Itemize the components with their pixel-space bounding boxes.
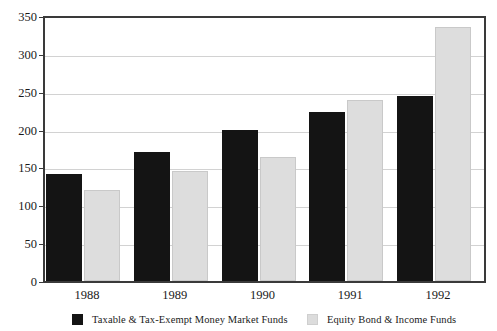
x-axis-tick-label: 1992 [398, 288, 478, 303]
bar-1989-series-2 [172, 171, 208, 281]
bar-1990-series-1 [222, 130, 258, 281]
y-axis-tick-label: 0 [0, 276, 37, 289]
legend-item-equity-bond: Equity Bond & Income Funds [307, 314, 456, 325]
y-axis-tick-label: 350 [0, 11, 37, 24]
bar-1989-series-1 [134, 152, 170, 281]
bar-series-group [45, 18, 484, 281]
bar-1990-series-2 [260, 157, 296, 281]
y-axis-tick-label: 50 [0, 238, 37, 251]
x-axis-tick-label: 1988 [47, 288, 127, 303]
bar-1991-series-1 [309, 112, 345, 281]
y-axis-tick-label: 200 [0, 125, 37, 138]
bar-1988-series-2 [84, 190, 120, 281]
plot-area [43, 16, 486, 283]
bar-1992-series-2 [435, 27, 471, 281]
x-axis-tick-label: 1991 [310, 288, 390, 303]
y-axis-tick-label: 300 [0, 49, 37, 62]
x-axis-tick-label: 1989 [135, 288, 215, 303]
y-axis-tick-label: 100 [0, 200, 37, 213]
bar-chart: 050100150200250300350 198819891990199119… [0, 0, 497, 331]
legend-label: Taxable & Tax-Exempt Money Market Funds [92, 314, 288, 325]
light-swatch-icon [307, 314, 318, 325]
chart-title-cropped [0, 0, 497, 9]
y-axis-tick-label: 250 [0, 87, 37, 100]
bar-1988-series-1 [46, 174, 82, 281]
legend-item-money-market: Taxable & Tax-Exempt Money Market Funds [72, 314, 288, 325]
bar-1992-series-1 [397, 96, 433, 282]
bar-1991-series-2 [347, 100, 383, 281]
chart-legend: Taxable & Tax-Exempt Money Market Funds … [0, 312, 497, 331]
x-axis-tick-label: 1990 [223, 288, 303, 303]
y-axis-tick-label: 150 [0, 162, 37, 175]
legend-label: Equity Bond & Income Funds [327, 314, 456, 325]
dark-swatch-icon [72, 314, 83, 325]
